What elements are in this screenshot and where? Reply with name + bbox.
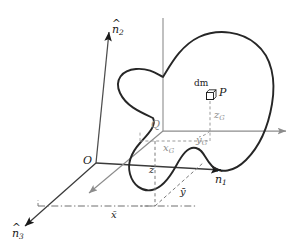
xG-label: xG <box>163 143 174 155</box>
xbar-label: x̄ <box>111 210 117 220</box>
zG-subscript: G <box>219 114 224 122</box>
axis-n3-label: ^n3 <box>12 228 24 241</box>
ybar-label: ȳ <box>180 187 186 197</box>
mass-element-cube <box>207 90 217 100</box>
mass-element-label: dm <box>194 79 208 88</box>
zG-label: zG <box>214 110 225 122</box>
point-P-label: P <box>219 87 226 98</box>
n2-subscript: 2 <box>119 28 124 37</box>
origin-label: O <box>83 155 92 166</box>
axis-n2-label: ^n2 <box>112 24 124 37</box>
n1-subscript: 1 <box>222 178 227 187</box>
n3-hat-accent: ^ <box>12 222 19 232</box>
point-Q-label: Q <box>151 119 160 130</box>
cube-front-face <box>207 93 214 100</box>
rigid-body-outline <box>118 32 273 190</box>
axis-n3-line <box>25 163 96 226</box>
inertial-frame-axes <box>25 32 221 226</box>
yG-label: yG <box>196 135 207 147</box>
n1-hat-accent: ^ <box>215 168 222 178</box>
n2-hat-accent: ^ <box>112 18 119 28</box>
axis-n1-label: ^n1 <box>215 174 227 187</box>
dm-text: dm <box>194 78 208 88</box>
body-axis-diagonal <box>89 131 163 193</box>
axis-n2-line <box>96 32 109 163</box>
yG-subscript: G <box>202 139 207 147</box>
n3-subscript: 3 <box>19 232 24 241</box>
xG-subscript: G <box>169 147 174 155</box>
zbar-label: z̄ <box>149 165 154 175</box>
